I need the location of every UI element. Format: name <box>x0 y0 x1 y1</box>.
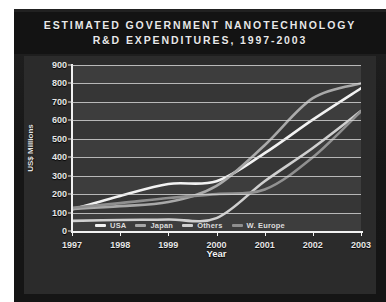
legend-item-usa[interactable]: USA <box>95 221 126 230</box>
y-tick-mark <box>68 65 72 66</box>
x-tick-mark <box>217 231 218 236</box>
x-tick-mark <box>313 231 314 236</box>
gridline <box>72 194 361 195</box>
y-tick-mark <box>68 157 72 158</box>
y-tick-label: 100 <box>52 208 67 218</box>
y-tick-mark <box>68 212 72 213</box>
y-tick-mark <box>68 175 72 176</box>
gridline <box>72 157 361 158</box>
poster-background: ESTIMATED GOVERNMENT NANOTECHNOLOGY R&D … <box>14 9 386 302</box>
gridline <box>72 83 361 84</box>
x-tick-mark <box>72 231 73 236</box>
legend-swatch-icon <box>135 224 146 227</box>
x-tick-label: 1999 <box>158 240 178 250</box>
chart-title-bar: ESTIMATED GOVERNMENT NANOTECHNOLOGY R&D … <box>14 12 386 54</box>
grid-band <box>72 176 361 194</box>
y-tick-label: 900 <box>52 60 67 70</box>
chart-legend: USAJapanOthersW. Europe <box>14 221 366 230</box>
y-tick-label: 300 <box>52 171 67 181</box>
legend-label: USA <box>110 221 126 230</box>
y-tick-mark <box>68 83 72 84</box>
grid-band <box>72 102 361 120</box>
chart-title-line-2: R&D EXPENDITURES, 1997-2003 <box>93 33 308 48</box>
x-tick-label: 2000 <box>206 240 226 250</box>
x-tick-mark <box>120 231 121 236</box>
chart-frame: US$ Millions Year 9008007006005004003002… <box>24 56 376 294</box>
plot-area: 9008007006005004003002001000 19971998199… <box>72 65 361 231</box>
chart-title-line-1: ESTIMATED GOVERNMENT NANOTECHNOLOGY <box>44 18 356 33</box>
legend-item-japan[interactable]: Japan <box>135 221 173 230</box>
y-tick-label: 400 <box>52 152 67 162</box>
gridline <box>72 120 361 121</box>
x-tick-mark <box>265 231 266 236</box>
y-tick-label: 800 <box>52 78 67 88</box>
x-tick-mark <box>361 231 362 236</box>
legend-label: Japan <box>150 221 173 230</box>
legend-item-others[interactable]: Others <box>182 221 222 230</box>
legend-swatch-icon <box>95 224 106 227</box>
y-tick-label: 500 <box>52 134 67 144</box>
legend-swatch-icon <box>182 224 193 227</box>
x-tick-label: 2002 <box>303 240 323 250</box>
x-tick-mark <box>168 231 169 236</box>
legend-label: W. Europe <box>247 221 285 230</box>
legend-swatch-icon <box>232 224 243 227</box>
y-axis-title: US$ Millions <box>26 124 35 172</box>
grid-band <box>72 65 361 83</box>
legend-item-w-europe[interactable]: W. Europe <box>232 221 285 230</box>
x-tick-label: 1998 <box>110 240 130 250</box>
y-tick-mark <box>68 194 72 195</box>
y-tick-label: 200 <box>52 189 67 199</box>
y-tick-mark <box>68 120 72 121</box>
y-tick-label: 600 <box>52 115 67 125</box>
y-tick-mark <box>68 101 72 102</box>
y-tick-mark <box>68 138 72 139</box>
x-tick-label: 2003 <box>351 240 371 250</box>
x-tick-label: 1997 <box>62 240 82 250</box>
grid-band <box>72 139 361 157</box>
legend-label: Others <box>197 221 222 230</box>
y-tick-label: 700 <box>52 97 67 107</box>
x-tick-label: 2001 <box>255 240 275 250</box>
